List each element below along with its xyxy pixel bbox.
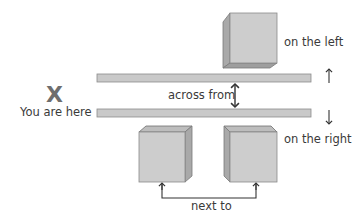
- building-bottom-left-front-face: [139, 132, 185, 182]
- building-bottom-left-top-face: [139, 126, 192, 132]
- building-bottom-right: [224, 126, 277, 182]
- lower-street-edge: [97, 109, 311, 117]
- upper-street-edge: [97, 74, 311, 82]
- you-are-here-x-mark: X: [46, 84, 63, 106]
- next-to-label: next to: [191, 199, 232, 213]
- building-bottom-right-side-face: [224, 126, 230, 182]
- on-the-left-label: on the left: [284, 35, 343, 49]
- building-bottom-left-side-face: [185, 126, 192, 182]
- on-the-right-label: on the right: [284, 132, 352, 146]
- building-bottom-left: [139, 126, 192, 182]
- building-top: [223, 13, 277, 68]
- building-bottom-right-front-face: [230, 132, 277, 182]
- building-top-side-face: [223, 13, 230, 68]
- street-diagram: X You are here on the left on the right …: [0, 0, 363, 217]
- next-to-bracket-icon: [162, 183, 256, 198]
- building-top-front-face: [230, 13, 277, 63]
- you-are-here-label: You are here: [20, 105, 92, 119]
- building-bottom-right-top-face: [224, 126, 277, 132]
- across-from-label: across from: [168, 88, 235, 102]
- building-top-bottom-face: [223, 63, 277, 68]
